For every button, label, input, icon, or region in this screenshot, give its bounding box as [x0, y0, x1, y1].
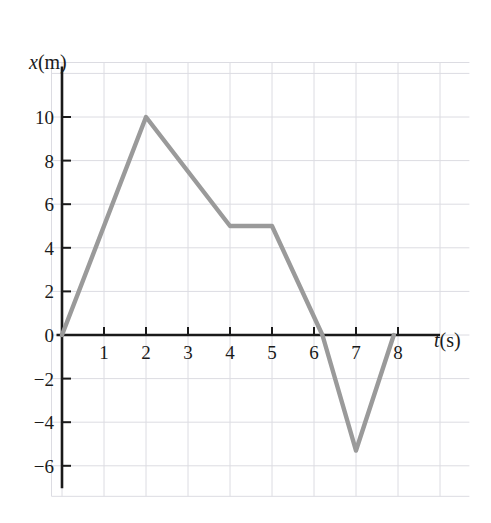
x-tick-label: 5	[257, 343, 287, 362]
x-tick-label: 3	[173, 343, 203, 362]
x-tick-label: 6	[299, 343, 329, 362]
y-tick-label: 10	[8, 108, 54, 127]
gridlines	[52, 63, 470, 497]
y-tick-label: 4	[8, 239, 54, 258]
y-tick-label: 6	[8, 195, 54, 214]
figure-canvas: 1086420−2−4−612345678 x(m) t(s)	[0, 0, 491, 523]
x-tick-label: 8	[383, 343, 413, 362]
x-axis-label: t(s)	[434, 330, 461, 350]
x-tick-label: 1	[89, 343, 119, 362]
axis-lines	[57, 67, 441, 489]
y-tick-label: −4	[8, 413, 54, 432]
y-tick-label: −6	[8, 457, 54, 476]
y-axis-label: x(m)	[29, 52, 67, 72]
position-time-graph	[0, 0, 491, 523]
x-tick-label: 2	[131, 343, 161, 362]
y-tick-label: 2	[8, 282, 54, 301]
x-tick-label: 7	[341, 343, 371, 362]
x-tick-label: 4	[215, 343, 245, 362]
data-curve	[62, 117, 394, 451]
y-tick-label: −2	[8, 370, 54, 389]
y-tick-label: 8	[8, 152, 54, 171]
y-tick-label: 0	[8, 326, 54, 345]
